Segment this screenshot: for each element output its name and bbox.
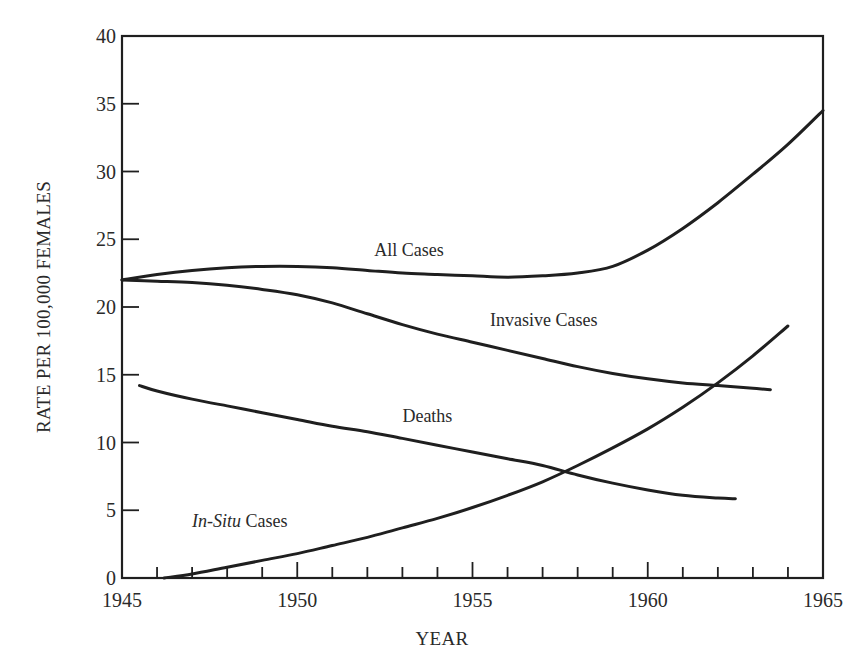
series-curves <box>122 111 823 579</box>
label-all-cases: All Cases <box>374 240 444 260</box>
y-tick-label: 5 <box>106 499 116 521</box>
x-tick-label: 1950 <box>277 589 317 611</box>
curve-all-cases <box>122 111 823 280</box>
y-tick-label: 25 <box>96 228 116 250</box>
label-in-situ-cases: In-Situ Cases <box>191 511 288 531</box>
series-labels: All CasesInvasive CasesDeathsIn-Situ Cas… <box>191 240 597 531</box>
curve-invasive-cases <box>122 280 770 390</box>
x-axis-label: YEAR <box>416 628 469 649</box>
y-tick-label: 15 <box>96 364 116 386</box>
y-tick-label: 10 <box>96 432 116 454</box>
label-deaths: Deaths <box>402 406 452 426</box>
x-tick-label: 1955 <box>453 589 493 611</box>
y-tick-label: 35 <box>96 93 116 115</box>
y-tick-label: 40 <box>96 25 116 47</box>
curve-deaths <box>140 386 736 499</box>
y-tick-label: 30 <box>96 161 116 183</box>
y-tick-label: 20 <box>96 296 116 318</box>
x-tick-label: 1965 <box>803 589 843 611</box>
line-chart: 0510152025303540 19451950195519601965 Al… <box>0 0 847 670</box>
x-tick-label: 1960 <box>628 589 668 611</box>
y-axis-label: RATE PER 100,000 FEMALES <box>33 181 54 433</box>
x-tick-label: 1945 <box>102 589 142 611</box>
y-axis-ticks: 0510152025303540 <box>96 25 139 589</box>
label-invasive-cases: Invasive Cases <box>490 310 597 330</box>
y-tick-label: 0 <box>106 567 116 589</box>
